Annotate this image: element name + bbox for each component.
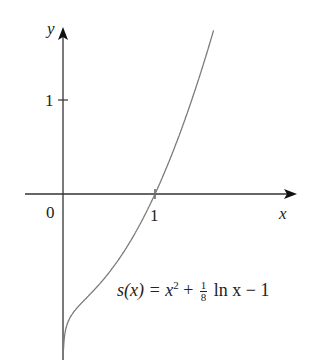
origin-label: 0 <box>46 204 55 221</box>
fraction-one-eighth: 18 <box>200 280 208 303</box>
formula-lhs: s(x) = x <box>117 280 173 300</box>
plot-area <box>0 0 314 363</box>
formula-rest: ln x − 1 <box>209 280 269 300</box>
x-tick-label-1: 1 <box>150 207 159 224</box>
y-tick-label-1: 1 <box>45 92 54 109</box>
formula-plus: + <box>179 280 198 300</box>
function-annotation: s(x) = x2 + 18 ln x − 1 <box>117 279 269 303</box>
y-axis-label: y <box>47 20 55 37</box>
x-axis-label: x <box>279 205 287 222</box>
